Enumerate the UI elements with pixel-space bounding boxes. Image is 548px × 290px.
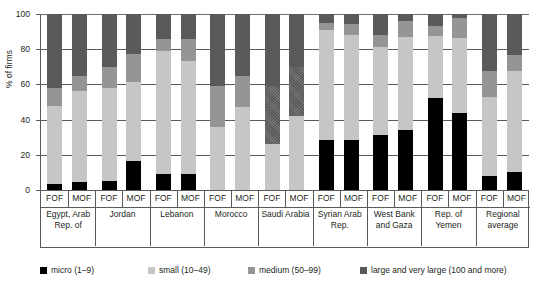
group-underline [41,207,95,208]
subcategory-divider [503,190,504,207]
bar-syrian-arab-rep-fof [319,14,334,190]
segment-medium [72,76,87,90]
x-sublabel-fof: FOF [476,190,503,207]
subcategory-row: FOFMOF [367,190,421,207]
segment-small [482,97,497,176]
segment-large [373,14,388,35]
segment-medium [181,39,196,61]
segment-small [156,51,171,174]
segment-micro [373,135,388,190]
subcategory-divider [448,190,449,207]
y-tick-label-0: 0 [4,186,30,194]
bar-morocco-fof [210,14,225,190]
bar-west-bank-and-gaza-fof [373,14,388,190]
x-sublabel-mof: MOF [394,190,421,207]
segment-large [47,14,62,88]
segment-small [72,91,87,183]
segment-small [373,47,388,135]
segment-small [289,116,304,190]
bar-jordan-fof [102,14,117,190]
bar-lebanon-mof [181,14,196,190]
bar-egypt-arab-rep-of-fof [47,14,62,190]
segment-medium [210,86,225,126]
segment-small [181,61,196,175]
segment-large [235,14,250,76]
legend-item-small: small (10–49) [148,262,211,278]
group-underline [258,207,312,208]
segment-large [319,14,334,23]
legend-swatch-icon [148,267,155,274]
segment-micro [319,140,334,190]
segment-large [210,14,225,86]
segment-small [428,36,443,98]
x-group-label: Egypt, Arab Rep. of [41,209,95,230]
x-sublabel-mof: MOF [285,190,312,207]
segment-medium [482,71,497,97]
segment-large [265,14,280,86]
segment-large [482,14,497,71]
bar-west-bank-and-gaza-mof [398,14,413,190]
segment-small [507,71,522,171]
segment-large [507,14,522,55]
legend-swatch-icon [248,267,255,274]
subcategory-divider [122,190,123,207]
x-group-label: Saudi Arabia [258,209,312,220]
segment-large [398,14,413,21]
subcategory-divider [177,190,178,207]
legend-label: large and very large (100 and more) [371,265,507,275]
segment-micro [482,176,497,190]
segment-micro [428,98,443,190]
segment-large [102,14,117,67]
cropped-title-fragment: ... [0,0,548,7]
group-underline [421,207,475,208]
segment-small [126,82,141,161]
chart-figure: ... 020406080100 % of firms FOFMOFEgypt,… [0,0,548,290]
segment-large [156,14,171,39]
segment-medium [319,23,334,30]
bar-saudi-arabia-mof [289,14,304,190]
legend-label: micro (1–9) [51,265,94,275]
subcategory-row: FOFMOF [150,190,204,207]
legend-item-medium: medium (50–99) [248,262,321,278]
segment-large [126,14,141,54]
segment-small [102,88,117,181]
segment-large [289,14,304,67]
bar-saudi-arabia-fof [265,14,280,190]
legend-item-large: large and very large (100 and more) [360,262,507,278]
segment-micro [344,140,359,190]
segment-medium [452,18,467,37]
segment-micro [126,161,141,190]
bar-syrian-arab-rep-mof [344,14,359,190]
subcategory-row: FOFMOF [41,190,95,207]
bar-morocco-mof [235,14,250,190]
group-underline [476,207,530,208]
segment-medium [47,88,62,106]
segment-medium [398,21,413,37]
x-sublabel-mof: MOF [340,190,367,207]
segment-large [452,14,467,18]
chart-legend: micro (1–9)small (10–49)medium (50–99)la… [40,262,540,278]
subcategory-divider [340,190,341,207]
segment-small [344,35,359,140]
x-sublabel-fof: FOF [367,190,394,207]
subcategory-divider [231,190,232,207]
segment-medium [344,24,359,35]
x-group-label: Regional average [476,209,530,230]
x-group-regional-average: FOFMOFRegional average [476,190,530,246]
x-group-jordan: FOFMOFJordan [95,190,149,246]
x-sublabel-fof: FOF [95,190,122,207]
x-sublabel-mof: MOF [68,190,95,207]
x-sublabel-fof: FOF [41,190,68,207]
segment-micro [72,182,87,190]
y-tick-label-20: 20 [4,151,30,159]
group-underline [150,207,204,208]
plot-area [40,14,529,190]
bar-rep-of-yemen-mof [452,14,467,190]
x-sublabel-mof: MOF [231,190,258,207]
segment-medium [265,86,280,144]
segment-micro [102,181,117,190]
legend-swatch-icon [360,267,367,274]
segment-medium [156,39,171,51]
segment-large [428,14,443,26]
x-sublabel-fof: FOF [421,190,448,207]
